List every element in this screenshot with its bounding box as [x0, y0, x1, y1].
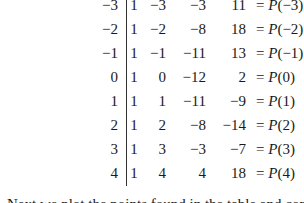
table-row: 1 1 1 −11 −9 = P(1)	[0, 89, 304, 113]
function-argument: (3)	[277, 141, 295, 157]
coefficient-2: 3	[140, 137, 166, 161]
table-row: −3 1 −3 −3 11 = P(−3)	[0, 0, 304, 17]
remainder: 18	[212, 17, 246, 41]
function-name: P	[268, 141, 277, 157]
coefficient-3: −3	[170, 0, 206, 17]
function-argument: (0)	[277, 69, 295, 85]
paragraph-text: Next we plot the points found in the tab…	[7, 195, 304, 203]
remainder: −7	[212, 137, 246, 161]
function-argument: (1)	[277, 93, 295, 109]
remainder: 2	[212, 65, 246, 89]
equals-sign: =	[256, 45, 268, 61]
equals-sign: =	[256, 93, 268, 109]
coefficient-3: −3	[170, 137, 206, 161]
coefficient-2: 0	[140, 65, 166, 89]
x-value: 3	[80, 137, 118, 161]
equals-sign: =	[256, 0, 268, 13]
x-value: −1	[80, 41, 118, 65]
function-name: P	[268, 45, 277, 61]
coefficient-3: −8	[170, 113, 206, 137]
leading-coefficient: 1	[128, 65, 140, 89]
function-name: P	[268, 165, 277, 181]
leading-coefficient: 1	[128, 137, 140, 161]
leading-coefficient: 1	[128, 113, 140, 137]
coefficient-3: −12	[170, 65, 206, 89]
function-argument: (−1)	[277, 45, 303, 61]
polynomial-value-label: = P(1)	[256, 89, 304, 113]
x-value: −2	[80, 17, 118, 41]
table-row: −1 1 −1 −11 13 = P(−1)	[0, 41, 304, 65]
polynomial-value-label: = P(−3)	[256, 0, 304, 17]
leading-coefficient: 1	[128, 89, 140, 113]
function-name: P	[268, 21, 277, 37]
table-row: 3 1 3 −3 −7 = P(3)	[0, 137, 304, 161]
equals-sign: =	[256, 165, 268, 181]
function-argument: (−3)	[277, 0, 303, 13]
leading-coefficient: 1	[128, 17, 140, 41]
coefficient-2: 4	[140, 161, 166, 185]
polynomial-value-label: = P(2)	[256, 113, 304, 137]
polynomial-value-label: = P(0)	[256, 65, 304, 89]
table-row: −2 1 −2 −8 18 = P(−2)	[0, 17, 304, 41]
remainder: 18	[212, 161, 246, 185]
x-value: 0	[80, 65, 118, 89]
table-row: 4 1 4 4 18 = P(4)	[0, 161, 304, 185]
function-argument: (4)	[277, 165, 295, 181]
remainder: 13	[212, 41, 246, 65]
remainder: −9	[212, 89, 246, 113]
table-row: 2 1 2 −8 −14 = P(2)	[0, 113, 304, 137]
x-value: 1	[80, 89, 118, 113]
leading-coefficient: 1	[128, 161, 140, 185]
x-value: −3	[80, 0, 118, 17]
remainder: 11	[212, 0, 246, 17]
function-name: P	[268, 69, 277, 85]
equals-sign: =	[256, 141, 268, 157]
coefficient-3: −11	[170, 89, 206, 113]
polynomial-value-label: = P(3)	[256, 137, 304, 161]
coefficient-3: −11	[170, 41, 206, 65]
table-row: 0 1 0 −12 2 = P(0)	[0, 65, 304, 89]
remainder: −14	[212, 113, 246, 137]
equals-sign: =	[256, 69, 268, 85]
polynomial-value-label: = P(−1)	[256, 41, 304, 65]
function-argument: (2)	[277, 117, 295, 133]
coefficient-3: −8	[170, 17, 206, 41]
leading-coefficient: 1	[128, 0, 140, 17]
coefficient-2: −3	[140, 0, 166, 17]
function-name: P	[268, 93, 277, 109]
coefficient-2: −1	[140, 41, 166, 65]
coefficient-2: 1	[140, 89, 166, 113]
coefficient-2: 2	[140, 113, 166, 137]
equals-sign: =	[256, 21, 268, 37]
function-argument: (−2)	[277, 21, 303, 37]
polynomial-value-label: = P(4)	[256, 161, 304, 185]
function-name: P	[268, 117, 277, 133]
x-value: 4	[80, 161, 118, 185]
function-name: P	[268, 0, 277, 13]
x-value: 2	[80, 113, 118, 137]
polynomial-value-label: = P(−2)	[256, 17, 304, 41]
equals-sign: =	[256, 117, 268, 133]
coefficient-2: −2	[140, 17, 166, 41]
leading-coefficient: 1	[128, 41, 140, 65]
coefficient-3: 4	[170, 161, 206, 185]
